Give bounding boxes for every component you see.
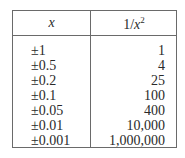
header-divider <box>13 35 176 36</box>
header-f-base: 1/ <box>123 17 134 32</box>
table-row: ±0.0110,000 <box>13 118 176 133</box>
cell-value: 400 <box>144 103 165 118</box>
cell-value: 1 <box>158 43 165 58</box>
cell-value: 100 <box>144 88 165 103</box>
table-row: ±11 <box>13 43 176 58</box>
cell-value: 25 <box>151 73 165 88</box>
cell-x: ±0.5 <box>31 58 56 73</box>
table-row: ±0.225 <box>13 73 176 88</box>
cell-x: ±0.01 <box>31 118 63 133</box>
table-row: ±0.05400 <box>13 103 176 118</box>
header-f-exp: 2 <box>140 15 145 25</box>
cell-value: 10,000 <box>127 118 166 133</box>
table-row: ±0.1100 <box>13 88 176 103</box>
cell-x: ±1 <box>31 43 46 58</box>
table-row: ±0.54 <box>13 58 176 73</box>
cell-x: ±0.1 <box>31 88 56 103</box>
table-body: ±11 ±0.54 ±0.225 ±0.1100 ±0.05400 ±0.011… <box>13 43 176 148</box>
header-x: x <box>13 15 90 31</box>
cell-x: ±0.001 <box>31 133 70 148</box>
cell-value: 4 <box>158 58 165 73</box>
header-inverse-square: 1/x2 <box>91 15 177 33</box>
table-row: ±0.0011,000,000 <box>13 133 176 148</box>
values-table: x 1/x2 ±11 ±0.54 ±0.225 ±0.1100 ±0.05400… <box>12 10 177 148</box>
cell-x: ±0.05 <box>31 103 63 118</box>
cell-x: ±0.2 <box>31 73 56 88</box>
cell-value: 1,000,000 <box>109 133 165 148</box>
